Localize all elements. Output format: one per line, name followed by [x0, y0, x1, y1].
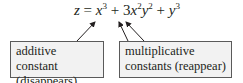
arrow-additive: [77, 22, 95, 41]
arrow-multiplicative-2: [126, 22, 144, 41]
label-line: additive constant: [16, 44, 98, 74]
label-line: constants (reappear): [125, 59, 226, 74]
label-line: (disappears): [16, 74, 98, 83]
label-multiplicative-constants: multiplicative constants (reappear): [119, 41, 232, 78]
diagram: z = x3 + 3x2y2 + y3 additive constant (d…: [0, 0, 243, 83]
arrow-multiplicative-1: [119, 22, 128, 41]
label-line: multiplicative: [125, 44, 226, 59]
label-additive-constant: additive constant (disappears): [10, 41, 104, 78]
